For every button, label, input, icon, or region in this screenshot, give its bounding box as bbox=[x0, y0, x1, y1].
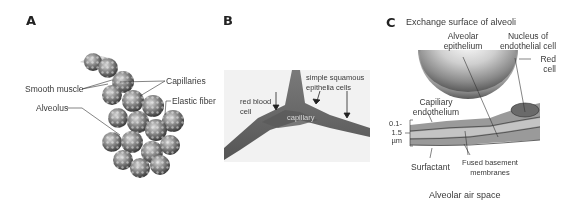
label-fused-basement: Fused basement membranes bbox=[460, 158, 520, 178]
label-capillary-endothelium-line1: Capiliary bbox=[408, 97, 464, 107]
alveoli-cluster-illustration bbox=[80, 50, 185, 180]
label-thickness-line3: µm bbox=[384, 137, 402, 146]
label-smooth-muscle: Smooth muscle bbox=[25, 84, 84, 94]
panel-a-letter: A bbox=[26, 13, 36, 28]
label-nucleus-endothelial: Nucleus of endothelial cell bbox=[488, 31, 568, 51]
label-simple-squamous-line1: simple squamous bbox=[306, 73, 364, 83]
label-alveolus: Alveolus bbox=[36, 103, 68, 113]
label-alveolar-epithelium-line2: epithelium bbox=[433, 41, 493, 51]
label-simple-squamous: simple squamous epithelia cells bbox=[306, 73, 364, 93]
label-fused-line1: Fused basement bbox=[460, 158, 520, 168]
label-capillary-endothelium: Capiliary endothelium bbox=[408, 97, 464, 117]
label-surfactant: Surfactant bbox=[411, 162, 450, 172]
label-alveolar-epithelium-line1: Alveolar bbox=[433, 31, 493, 41]
label-red-blood-line1: red blood bbox=[240, 97, 271, 107]
label-red-blood-cell: red blood cell bbox=[240, 97, 271, 117]
label-alveolar-epithelium: Alveolar epithelium bbox=[433, 31, 493, 51]
label-nucleus-line1: Nucleus of bbox=[488, 31, 568, 41]
label-nucleus-line2: endothelial cell bbox=[488, 41, 568, 51]
label-simple-squamous-line2: epithelia cells bbox=[306, 83, 364, 93]
label-fused-line2: membranes bbox=[460, 168, 520, 178]
label-thickness: 0.1- 1.5 µm bbox=[384, 120, 402, 146]
label-elastic-fiber: Elastic fiber bbox=[172, 96, 216, 106]
label-capillary: capillary bbox=[287, 113, 315, 123]
label-red-cell-line1: Red bbox=[530, 54, 556, 64]
label-capillary-endothelium-line2: endothelium bbox=[408, 107, 464, 117]
label-alveolar-air-space: Alveolar air space bbox=[429, 190, 501, 200]
panel-c-letter: C bbox=[386, 15, 396, 30]
panel-c-title: Exchange surface of alveoli bbox=[406, 17, 516, 27]
panel-b-letter: B bbox=[223, 13, 233, 28]
label-red-cell-line2: cell bbox=[530, 64, 556, 74]
label-red-blood-line2: cell bbox=[240, 107, 271, 117]
label-red-cell: Red cell bbox=[530, 54, 556, 74]
label-capillaries: Capillaries bbox=[166, 76, 206, 86]
